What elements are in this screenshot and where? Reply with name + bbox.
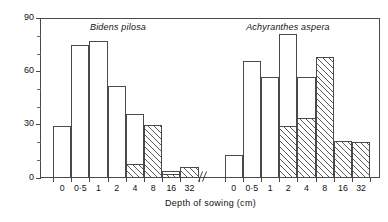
x-tick-label-0-7: 32 [185,183,195,194]
y-tick-label-90: 90 [16,13,34,22]
x-tick-0-0 [53,178,54,182]
bar-bidens-pilosa-hatched-8 [144,125,162,178]
x-tick-1-8 [370,178,371,182]
bar-bidens-pilosa-open-2 [108,86,126,178]
bar-achyranthes-aspera-open-1 [261,77,279,178]
x-tick-1-5 [316,178,317,182]
x-tick-1-1 [243,178,244,182]
bar-achyranthes-aspera-hatched-8 [316,57,334,178]
x-tick-label-0-6: 16 [166,183,176,194]
plot-area [41,18,380,178]
y-tick-label-0: 0 [16,173,34,182]
bar-achyranthes-aspera-open-0·5 [243,61,261,178]
x-tick-label-1-6: 16 [338,183,348,194]
x-tick-1-4 [297,178,298,182]
panel-title-achyranthes-aspera: Achyranthes aspera [246,22,330,32]
bar-achyranthes-aspera-open-0 [225,155,243,178]
bar-bidens-pilosa-open-0·5 [71,45,89,178]
x-axis-tick-labels: 00·51248163200·512481632 [41,183,380,196]
bar-achyranthes-aspera-hatched-4 [297,118,315,178]
x-tick-label-1-7: 32 [356,183,366,194]
x-tick-0-7 [180,178,181,182]
x-tick-0-2 [89,178,90,182]
x-tick-label-0-2: 1 [96,183,101,194]
x-tick-0-1 [71,178,72,182]
bar-achyranthes-aspera-hatched-16 [334,141,352,178]
x-tick-label-1-3: 2 [286,183,291,194]
x-tick-label-0-3: 2 [114,183,119,194]
bar-achyranthes-aspera-hatched-2 [279,126,297,178]
bar-bidens-pilosa-open-1 [89,41,107,178]
bar-bidens-pilosa-hatched-16 [162,174,180,178]
x-tick-label-1-4: 4 [304,183,309,194]
x-tick-0-6 [162,178,163,182]
y-tick-label-30: 30 [16,119,34,128]
bar-bidens-pilosa-hatched-4 [126,164,144,178]
y-tick-label-60: 60 [16,66,34,75]
bar-bidens-pilosa-hatched-32 [180,167,198,178]
chart-figure: Seeds germinating and emerging (%) 90 60… [0,0,388,222]
y-axis-tick-labels: 90 60 30 0 [12,0,34,222]
x-tick-label-0-1: 0·5 [74,183,87,194]
x-tick-0-4 [126,178,127,182]
x-tick-label-0-5: 8 [151,183,156,194]
x-tick-label-0-4: 4 [132,183,137,194]
bar-bidens-pilosa-open-0 [53,126,71,178]
x-tick-0-3 [108,178,109,182]
x-tick-1-2 [261,178,262,182]
x-tick-label-1-2: 1 [268,183,273,194]
x-tick-label-1-5: 8 [322,183,327,194]
x-tick-label-0-0: 0 [60,183,65,194]
x-tick-1-6 [334,178,335,182]
x-tick-1-0 [225,178,226,182]
x-tick-label-1-1: 0·5 [246,183,259,194]
x-tick-1-3 [279,178,280,182]
x-tick-0-5 [144,178,145,182]
x-axis-title: Depth of sowing (cm) [41,198,380,208]
x-tick-1-7 [352,178,353,182]
bar-achyranthes-aspera-hatched-32 [352,142,370,178]
panel-title-bidens-pilosa: Bidens pilosa [90,22,146,32]
x-tick-label-1-0: 0 [231,183,236,194]
